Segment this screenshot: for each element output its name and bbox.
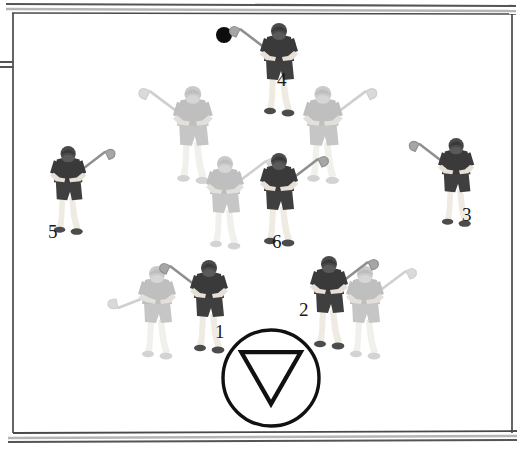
field-boundary-top-fill	[6, 9, 516, 11]
player-2-label: 2	[299, 300, 309, 319]
player-3-label: 3	[462, 205, 472, 224]
player-5-figure	[50, 146, 115, 235]
players-layer	[50, 23, 474, 359]
player-1-label: 1	[215, 322, 225, 341]
field-boundary-bottom-fill	[8, 436, 517, 438]
goal-marker-circle	[223, 330, 319, 426]
player-4-label: 4	[277, 70, 287, 89]
field-boundary-top-outer	[6, 4, 516, 6]
field-canvas	[0, 0, 519, 456]
field-boundary-bottom-inner	[13, 431, 517, 433]
player-4-figure	[230, 23, 298, 116]
field-boundary-bottom-outer	[8, 440, 517, 442]
goal-marker-triangle-icon	[241, 352, 301, 404]
player-gray-bottom-right	[346, 266, 416, 359]
player-gray-bottom-left	[108, 266, 176, 359]
player-5-label: 5	[48, 222, 58, 241]
goal-cone-marker	[223, 330, 319, 426]
player-gray-upper-right	[303, 86, 377, 184]
field-boundary-top-inner	[12, 13, 516, 14]
player-gray-upper-left	[139, 86, 213, 184]
player-6-label: 6	[272, 232, 282, 251]
drill-diagram: 4 5 3 6 1 2	[0, 0, 519, 456]
